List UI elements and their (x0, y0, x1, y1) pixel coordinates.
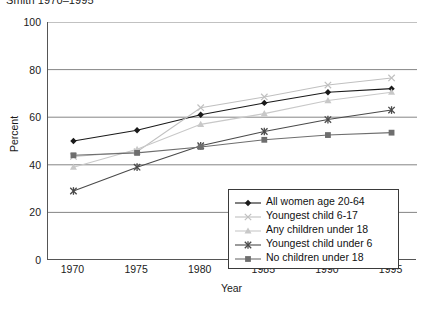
y-tick-label: 40 (29, 159, 41, 171)
triangle-marker (233, 223, 263, 235)
y-tick-label: 60 (29, 111, 41, 123)
x-marker (233, 209, 263, 221)
diamond-marker (325, 89, 331, 95)
asterisk-marker (233, 237, 263, 249)
data-series (70, 89, 395, 170)
x-tick-label: 1970 (61, 263, 84, 275)
square-marker (134, 150, 140, 156)
legend-item[interactable]: Youngest child under 6 (233, 236, 393, 250)
legend: All women age 20-64Youngest child 6-17An… (228, 189, 399, 269)
asterisk-marker (134, 163, 140, 171)
x-tick-label: 1980 (188, 263, 211, 275)
asterisk-marker (70, 187, 76, 195)
diamond-marker (233, 195, 263, 207)
square-marker (245, 256, 251, 262)
square-marker (233, 251, 263, 263)
diamond-marker (245, 200, 251, 206)
data-series (70, 85, 395, 144)
square-marker (325, 132, 331, 138)
chart-figure: Smith 1970–1995 100806040200 Percent 197… (0, 0, 425, 335)
y-axis-tick-labels: 100806040200 (0, 0, 41, 335)
diamond-marker (70, 138, 76, 144)
data-series (71, 130, 395, 158)
y-tick-label: 80 (29, 64, 41, 76)
legend-item-label: Any children under 18 (263, 223, 368, 235)
y-axis-title: Percent (8, 104, 20, 164)
legend-item-label: Youngest child under 6 (263, 237, 372, 249)
legend-item-label: Youngest child 6-17 (263, 209, 358, 221)
square-marker (261, 137, 267, 143)
x-axis-title: Year (47, 282, 416, 294)
legend-item[interactable]: No children under 18 (233, 250, 393, 264)
y-tick-label: 0 (35, 254, 41, 266)
legend-item-label: All women age 20-64 (263, 195, 365, 207)
square-marker (71, 152, 77, 158)
y-tick-label: 20 (29, 206, 41, 218)
legend-item[interactable]: Any children under 18 (233, 222, 393, 236)
triangle-marker (388, 89, 395, 95)
y-tick-label: 100 (23, 16, 41, 28)
legend-item[interactable]: All women age 20-64 (233, 194, 393, 208)
legend-item[interactable]: Youngest child 6-17 (233, 208, 393, 222)
square-marker (389, 130, 395, 136)
legend-item-label: No children under 18 (263, 251, 363, 263)
x-tick-label: 1975 (124, 263, 147, 275)
square-marker (198, 144, 204, 150)
diamond-marker (261, 100, 267, 106)
diamond-marker (134, 127, 140, 133)
